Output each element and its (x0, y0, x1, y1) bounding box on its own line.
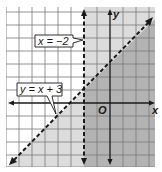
callout-x-minus-2: x = −2 (35, 35, 83, 47)
x-axis-left-arrow-icon (8, 101, 14, 106)
callout-y-equals-x-plus-3: y = x + 3 (17, 83, 63, 114)
x-axis-label: x (151, 104, 159, 116)
coordinate-plane: x = −2 y = x + 3 y x O (0, 0, 162, 172)
y-axis-label: y (112, 8, 120, 20)
label-x-minus-2: x = −2 (37, 35, 69, 47)
origin-label: O (98, 104, 107, 116)
label-y-equals-x-plus-3: y = x + 3 (19, 83, 63, 95)
